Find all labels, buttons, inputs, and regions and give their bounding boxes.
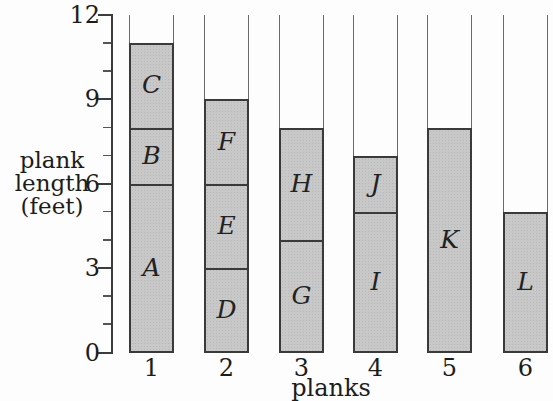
y-tick-label: 6 bbox=[56, 170, 100, 198]
x-tick-label: 6 bbox=[504, 356, 548, 380]
bar-segments: L bbox=[503, 212, 548, 353]
y-tick-label: 3 bbox=[56, 254, 100, 282]
x-tick-label: 1 bbox=[130, 356, 174, 380]
segment-divider bbox=[131, 128, 172, 130]
segment-label-I: I bbox=[355, 267, 396, 297]
plot-area: 036912ABC1DEF2GH3IJ4K5L6 bbox=[0, 0, 553, 401]
y-minor-tick bbox=[103, 323, 111, 325]
plank-length-chart: plank length (feet) 036912ABC1DEF2GH3IJ4… bbox=[0, 0, 553, 401]
bar-segments: K bbox=[427, 128, 472, 353]
segment-divider bbox=[355, 212, 396, 214]
bar-segments: IJ bbox=[353, 156, 398, 353]
y-minor-tick bbox=[103, 127, 111, 129]
segment-label-E: E bbox=[206, 211, 247, 241]
bar-segments: ABC bbox=[129, 43, 174, 352]
segment-label-L: L bbox=[505, 267, 546, 297]
bar-segments: GH bbox=[279, 128, 324, 353]
segment-label-B: B bbox=[131, 141, 172, 171]
y-minor-tick bbox=[103, 239, 111, 241]
x-tick-label: 5 bbox=[428, 356, 472, 380]
x-axis-title: planks bbox=[231, 375, 431, 401]
y-minor-tick bbox=[103, 211, 111, 213]
bar-segments: DEF bbox=[204, 99, 249, 352]
segment-divider bbox=[131, 184, 172, 186]
segment-label-C: C bbox=[131, 70, 172, 100]
segment-divider bbox=[206, 184, 247, 186]
segment-label-D: D bbox=[206, 295, 247, 325]
y-minor-tick bbox=[103, 42, 111, 44]
y-tick-label: 9 bbox=[56, 85, 100, 113]
y-minor-tick bbox=[103, 155, 111, 157]
segment-label-J: J bbox=[355, 169, 396, 199]
segment-label-F: F bbox=[206, 127, 247, 157]
y-tick-label: 12 bbox=[56, 1, 100, 29]
y-minor-tick bbox=[103, 295, 111, 297]
y-minor-tick bbox=[103, 70, 111, 72]
segment-label-G: G bbox=[281, 281, 322, 311]
segment-divider bbox=[281, 240, 322, 242]
y-tick-label: 0 bbox=[56, 339, 100, 367]
segment-label-K: K bbox=[429, 225, 470, 255]
segment-divider bbox=[206, 268, 247, 270]
y-axis-line bbox=[111, 14, 113, 354]
segment-label-H: H bbox=[281, 169, 322, 199]
segment-label-A: A bbox=[131, 253, 172, 283]
